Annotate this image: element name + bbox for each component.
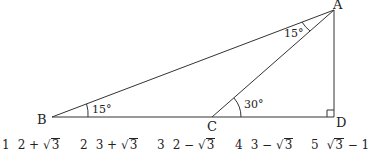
angle-label-C: 30° — [244, 99, 264, 110]
answer-choices: 12 + √3 23 + √3 32 − √3 43 − √3 5√3 − 1 — [0, 138, 369, 154]
sqrt-radicand: 3 — [51, 138, 61, 151]
sqrt-radicand: 3 — [129, 138, 139, 151]
choice-3[interactable]: 32 − √3 — [157, 138, 215, 152]
sqrt-radicand: 3 — [284, 138, 294, 151]
angle-label-B: 15° — [92, 104, 112, 115]
point-label-C: C — [207, 120, 217, 133]
angle-arc-C — [234, 98, 241, 117]
sqrt-radicand: 3 — [206, 138, 216, 151]
triangle-diagram — [0, 0, 369, 154]
angle-arc-B — [87, 104, 89, 117]
point-label-B: B — [37, 113, 47, 126]
point-label-A: A — [333, 0, 342, 11]
segment-AC — [212, 10, 334, 117]
choice-2[interactable]: 23 + √3 — [80, 138, 138, 152]
point-label-D: D — [336, 116, 346, 129]
right-angle-mark — [327, 110, 334, 117]
angle-label-A: 15° — [284, 28, 304, 39]
sqrt-radicand: 3 — [334, 138, 344, 151]
choice-4[interactable]: 43 − √3 — [235, 138, 293, 152]
choice-1[interactable]: 12 + √3 — [2, 138, 60, 152]
choice-5[interactable]: 5√3 − 1 — [311, 138, 369, 152]
